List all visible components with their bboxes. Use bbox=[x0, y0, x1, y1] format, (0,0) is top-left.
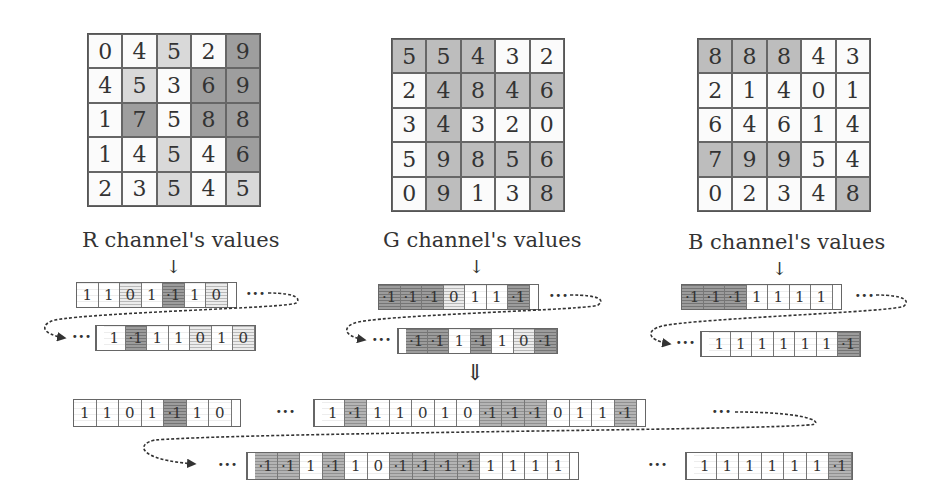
dashed-connector-lines bbox=[0, 0, 944, 494]
